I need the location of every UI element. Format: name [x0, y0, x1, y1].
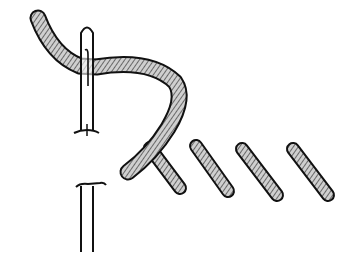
needle-upper: [74, 28, 99, 137]
stitch-3: [242, 149, 277, 195]
stitch-2: [196, 146, 228, 191]
stitch-4: [293, 149, 328, 195]
needle-lower: [76, 183, 106, 252]
stitch-illustration: [0, 0, 362, 280]
completed-stitches: [150, 146, 328, 195]
working-thread: [38, 18, 179, 172]
illustration-svg: [0, 0, 362, 280]
